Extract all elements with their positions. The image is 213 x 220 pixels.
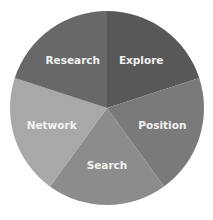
- pie-chart: ExplorePositionSearchNetworkResearch: [0, 0, 213, 220]
- slice-label-network: Network: [27, 119, 78, 131]
- slice-label-position: Position: [138, 119, 186, 131]
- slice-label-search: Search: [87, 159, 128, 171]
- slice-label-research: Research: [46, 54, 101, 66]
- slice-label-explore: Explore: [119, 54, 164, 66]
